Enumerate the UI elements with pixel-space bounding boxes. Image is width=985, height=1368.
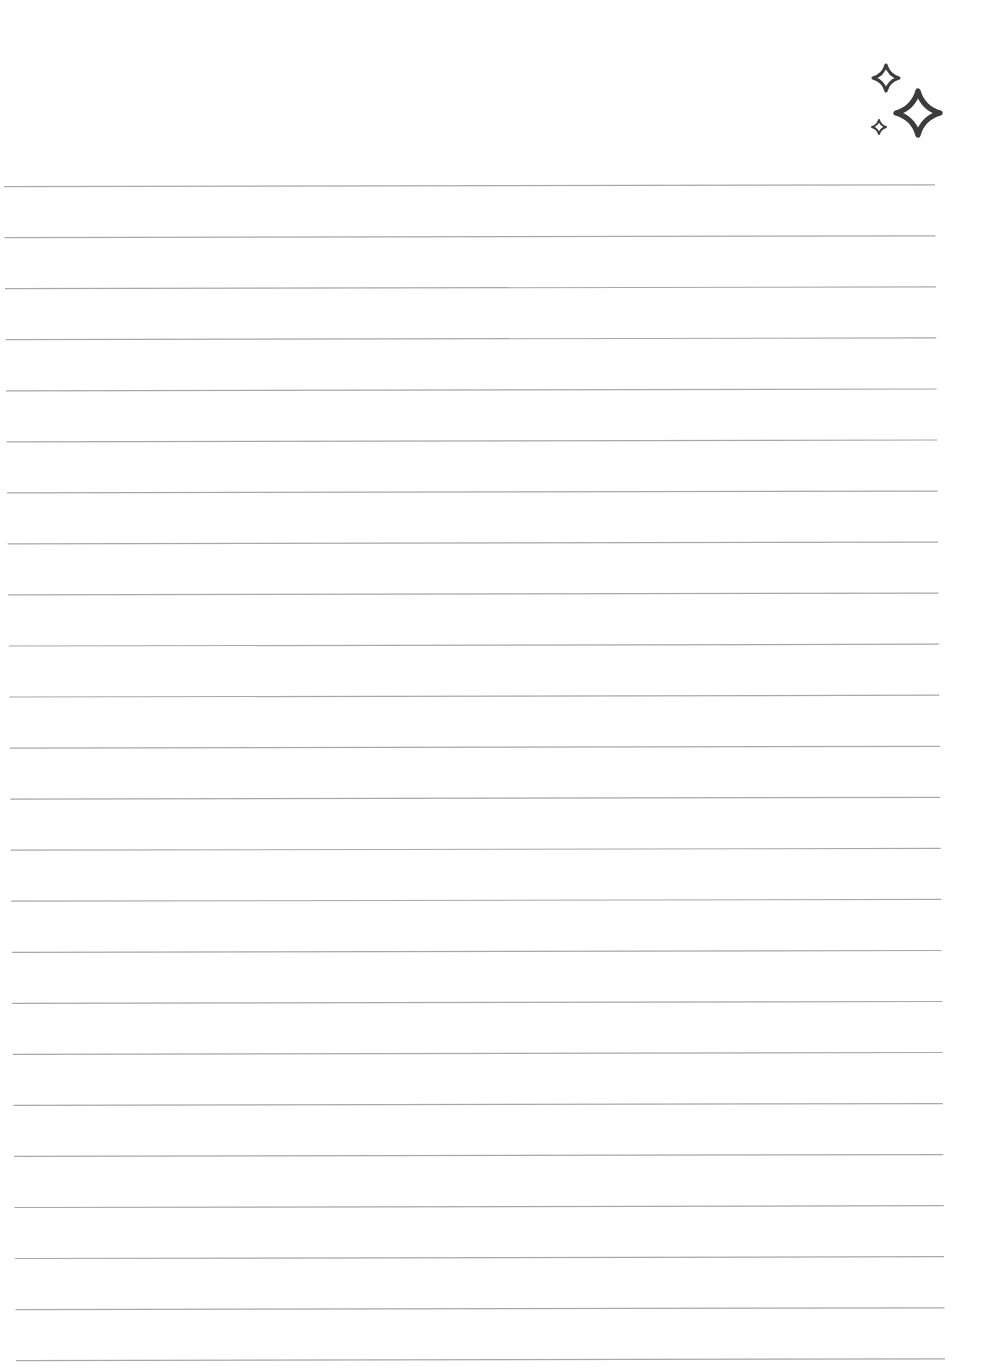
lined-paper-page	[0, 0, 985, 1368]
sparkle-medium-icon	[873, 65, 899, 91]
sparkle-large-icon	[896, 91, 940, 135]
sparkles-icon	[0, 0, 985, 1368]
sparkle-small-icon	[872, 120, 886, 134]
